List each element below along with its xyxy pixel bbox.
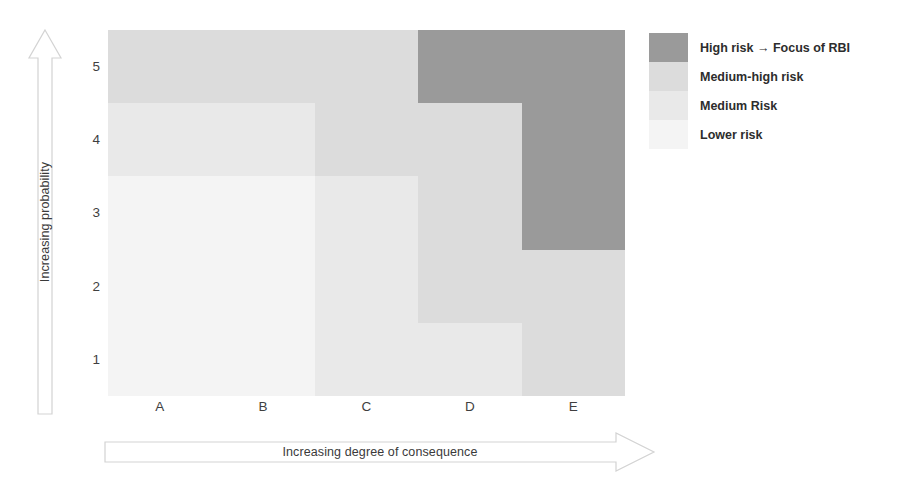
risk-cell-D2 [418,250,521,323]
risk-cell-D3 [418,176,521,249]
risk-cell-A2 [108,250,211,323]
legend-swatch-medium-high-risk [649,62,688,91]
legend-swatch-medium-risk [649,91,688,120]
risk-cell-D1 [418,323,521,396]
risk-cell-C4 [315,103,418,176]
risk-cell-B1 [211,323,314,396]
x-tick-label: C [315,399,418,421]
risk-cell-B5 [211,30,314,103]
risk-cell-E5 [522,30,625,103]
legend-item-lower-risk: Lower risk [649,120,899,149]
legend: High risk → Focus of RBI Medium-high ris… [649,33,899,149]
risk-cell-D5 [418,30,521,103]
legend-swatch-lower-risk [649,120,688,149]
y-tick-label: 2 [78,250,100,323]
x-tick-label: E [522,399,625,421]
y-tick-label: 5 [78,30,100,103]
risk-cell-E1 [522,323,625,396]
legend-label-high-risk: High risk → Focus of RBI [700,41,850,55]
legend-item-medium-risk: Medium Risk [649,91,899,120]
risk-cell-B3 [211,176,314,249]
legend-item-high-risk: High risk → Focus of RBI [649,33,899,62]
legend-label-medium-risk: Medium Risk [700,99,777,113]
risk-cell-C5 [315,30,418,103]
legend-item-medium-high-risk: Medium-high risk [649,62,899,91]
risk-cell-A3 [108,176,211,249]
x-axis-tick-labels: A B C D E [108,399,625,421]
risk-cell-B4 [211,103,314,176]
risk-cell-A5 [108,30,211,103]
risk-cell-A1 [108,323,211,396]
legend-label-medium-high-risk: Medium-high risk [700,70,803,84]
risk-cell-E2 [522,250,625,323]
y-tick-label: 3 [78,176,100,249]
risk-matrix-grid [108,30,625,396]
x-tick-label: D [418,399,521,421]
y-tick-label: 1 [78,323,100,396]
x-tick-label: B [211,399,314,421]
legend-label-lower-risk: Lower risk [700,128,763,142]
risk-matrix-figure: Increasing probability 5 4 3 2 1 A B C D… [0,0,905,497]
y-tick-label: 4 [78,103,100,176]
increasing-consequence-arrow-icon [104,432,656,472]
risk-cell-A4 [108,103,211,176]
increasing-probability-arrow-icon [27,28,63,416]
risk-cell-C1 [315,323,418,396]
legend-swatch-high-risk [649,33,688,62]
risk-cell-B2 [211,250,314,323]
risk-cell-D4 [418,103,521,176]
risk-cell-E4 [522,103,625,176]
x-tick-label: A [108,399,211,421]
risk-cell-C2 [315,250,418,323]
risk-cell-E3 [522,176,625,249]
y-axis-tick-labels: 5 4 3 2 1 [78,30,100,396]
risk-cell-C3 [315,176,418,249]
